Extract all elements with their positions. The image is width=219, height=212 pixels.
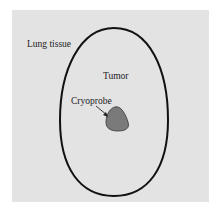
tumor-label: Tumor [103,71,129,81]
cryoprobe-label: Cryoprobe [71,96,112,106]
lung-tissue-label: Lung tissue [27,39,71,49]
cryoablation-diagram: Lung tissue Tumor Cryoprobe [0,0,219,212]
